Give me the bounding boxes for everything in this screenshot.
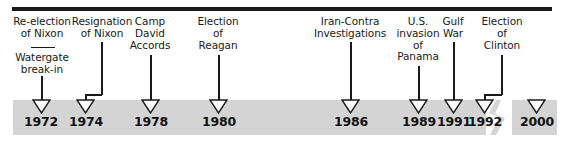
arrow-marker-1992 (475, 99, 494, 114)
year-label-2000: 2000 (507, 114, 567, 129)
leader-line-watergate (41, 76, 43, 101)
label-divider-watergate (31, 47, 55, 48)
leader-line-iran-contra (350, 42, 352, 101)
arrow-marker-1978 (141, 99, 160, 114)
leader-line-panama-invasion (418, 66, 420, 101)
arrow-marker-1972 (32, 99, 51, 114)
event-label-election-reagan: Election of Reagan (190, 16, 246, 51)
leader-line-resignation-nixon-horizontal (85, 94, 102, 96)
arrow-marker-1989 (409, 99, 428, 114)
year-label-1974: 1974 (56, 114, 116, 129)
arrow-marker-1980 (209, 99, 228, 114)
year-label-1980: 1980 (189, 114, 249, 129)
year-label-1992: 1992 (455, 114, 515, 129)
leader-line-election-reagan (218, 55, 220, 101)
timeline-figure: Re-election of Nixon Watergate break-in … (0, 0, 570, 141)
leader-line-election-clinton-vertical (501, 55, 503, 95)
leader-line-election-clinton-horizontal (484, 94, 502, 96)
event-label-watergate: Watergate break-in (4, 52, 80, 76)
arrow-marker-1991 (444, 99, 463, 114)
top-rule (12, 7, 552, 11)
leader-line-camp-david (150, 55, 152, 101)
leader-line-resignation-nixon-vertical (101, 42, 103, 95)
arrow-marker-2000 (527, 99, 546, 114)
leader-line-gulf-war (453, 42, 455, 101)
event-label-camp-david: Camp David Accords (122, 16, 178, 51)
event-label-gulf-war: Gulf War (433, 16, 473, 40)
arrow-marker-1986 (341, 99, 360, 114)
event-label-election-clinton: Election of Clinton (474, 16, 530, 51)
year-label-1978: 1978 (121, 114, 181, 129)
arrow-marker-1974 (76, 99, 95, 114)
year-label-1986: 1986 (321, 114, 381, 129)
event-label-iran-contra: Iran-Contra Investigations (304, 16, 396, 40)
